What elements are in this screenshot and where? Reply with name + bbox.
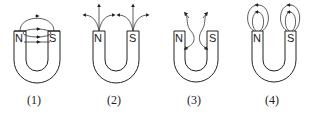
south-pole-label: S bbox=[49, 32, 56, 44]
north-pole-label: N bbox=[94, 32, 102, 44]
south-pole-label: S bbox=[209, 32, 216, 44]
magnet-4: N S (4) bbox=[248, 5, 300, 107]
north-pole-label: N bbox=[15, 32, 23, 44]
magnet-3: N S (3) bbox=[174, 13, 218, 107]
magnet-2: N S (2) bbox=[84, 5, 148, 107]
magnet-1: N S (1) bbox=[14, 16, 60, 107]
caption-2: (2) bbox=[107, 93, 121, 107]
north-pole-label: N bbox=[253, 32, 261, 44]
caption-3: (3) bbox=[187, 93, 201, 107]
caption-4: (4) bbox=[265, 93, 279, 107]
magnet-field-diagram: N S (1) N S (2) N S bbox=[0, 0, 318, 115]
south-pole-label: S bbox=[129, 32, 136, 44]
north-pole-label: N bbox=[175, 32, 183, 44]
caption-1: (1) bbox=[27, 93, 41, 107]
south-pole-label: S bbox=[287, 32, 294, 44]
